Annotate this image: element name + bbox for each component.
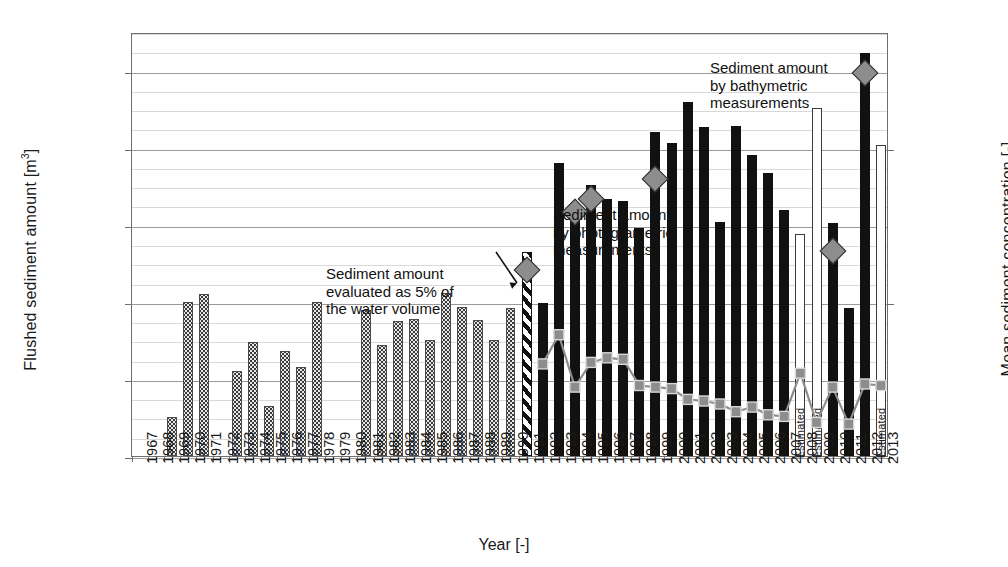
y-axis-left-title: Flushed sediment amount [m3]	[20, 90, 39, 430]
x-axis-label-2003: 2003	[724, 432, 740, 464]
x-axis-label-1968: 1968	[160, 432, 176, 464]
x-axis-label-1967: 1967	[144, 432, 160, 464]
chart-figure: Flushed sediment amount [m3] Mean sedime…	[0, 0, 1008, 567]
y-axis-left-tickmark	[125, 227, 132, 228]
x-axis-label-1994: 1994	[579, 432, 595, 464]
y-axis-left-tickmark	[125, 381, 132, 382]
y-axis-left-title-suffix: ]	[22, 149, 39, 154]
x-axis-label-1981: 1981	[370, 432, 386, 464]
x-axis-label-2005: 2005	[756, 432, 772, 464]
y-axis-right-tickmark	[887, 150, 894, 151]
y-axis-left-tickmark	[125, 150, 132, 151]
x-axis-label-1975: 1975	[273, 432, 289, 464]
y-axis-right-tickmark	[887, 304, 894, 305]
x-axis-label-2008: 2008	[804, 432, 820, 464]
x-axis-label-2002: 2002	[708, 432, 724, 464]
x-axis-label-1971: 1971	[208, 432, 224, 464]
x-axis-label-2004: 2004	[740, 432, 756, 464]
x-axis-label-1993: 1993	[563, 432, 579, 464]
x-axis-label-1970: 1970	[192, 432, 208, 464]
x-axis-label-1998: 1998	[643, 432, 659, 464]
x-axis-label-2006: 2006	[772, 432, 788, 464]
y-axis-left-title-superscript: 3	[20, 153, 31, 159]
x-axis-label-1985: 1985	[434, 432, 450, 464]
x-axis-label-1988: 1988	[482, 432, 498, 464]
y-axis-left-tickmark	[125, 304, 132, 305]
x-axis-label-1991: 1991	[531, 432, 547, 464]
x-axis-label-1989: 1989	[498, 432, 514, 464]
x-axis-label-1977: 1977	[305, 432, 321, 464]
x-axis-label-1982: 1982	[386, 432, 402, 464]
x-axis-label-1974: 1974	[257, 432, 273, 464]
x-axis-label-2011: 2011	[853, 433, 869, 464]
x-axis-label-1972: 1972	[225, 432, 241, 464]
y-axis-right-title: Mean sediment concentration [-]	[999, 89, 1008, 429]
x-axis-label-1969: 1969	[176, 432, 192, 464]
x-axis-label-2012: 2012	[869, 432, 885, 464]
y-axis-left-tickmark	[125, 458, 132, 459]
x-axis-label-2010: 2010	[837, 432, 853, 464]
x-axis-label-1986: 1986	[450, 432, 466, 464]
x-axis-tickmark	[132, 456, 133, 462]
x-axis-label-1984: 1984	[418, 432, 434, 464]
x-axis-label-2013: 2013	[885, 432, 901, 464]
x-axis-title: Year [-]	[0, 536, 1008, 554]
x-axis-label-1990: 1990	[515, 432, 531, 464]
x-axis-label-1987: 1987	[466, 432, 482, 464]
x-axis-label-1997: 1997	[627, 432, 643, 464]
y-axis-left-title-text: Flushed sediment amount [m	[22, 159, 39, 371]
x-axis-label-1979: 1979	[337, 432, 353, 464]
x-axis-label-2000: 2000	[676, 432, 692, 464]
x-axis-label-1995: 1995	[595, 432, 611, 464]
x-axis-label-1996: 1996	[611, 432, 627, 464]
x-axis-label-1980: 1980	[353, 432, 369, 464]
x-axis-label-1992: 1992	[547, 432, 563, 464]
x-axis-label-1976: 1976	[289, 432, 305, 464]
x-axis-label-1973: 1973	[241, 432, 257, 464]
x-axis-label-1978: 1978	[321, 432, 337, 464]
x-axis-label-2001: 2001	[692, 432, 708, 464]
y-axis-left-tickmark	[125, 73, 132, 74]
x-axis-label-1983: 1983	[402, 432, 418, 464]
x-axis-label-2009: 2009	[821, 432, 837, 464]
annotation-arrow	[132, 34, 887, 456]
x-axis-label-2007: 2007	[788, 432, 804, 464]
plot-area: 0100'000200'000300'000400'000500'000 0%1…	[131, 33, 888, 457]
x-axis-label-1999: 1999	[659, 432, 675, 464]
